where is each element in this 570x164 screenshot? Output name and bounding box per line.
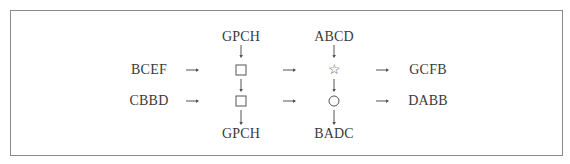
down-arrow-icon: [334, 79, 335, 91]
right-arrow-icon: [283, 70, 295, 71]
right-arrow-icon: [186, 101, 198, 102]
right-arrow-icon: [283, 101, 295, 102]
down-arrow-icon: [241, 79, 242, 91]
input-top: BCEF: [131, 62, 167, 78]
down-arrow-icon: [241, 45, 242, 57]
output-bottom: DABB: [408, 93, 448, 109]
col2-bottom-label: BADC: [314, 126, 354, 142]
col1-bottom-label: GPCH: [222, 126, 260, 142]
square-node-icon: [236, 96, 247, 107]
diagram-frame: [10, 10, 563, 156]
star-node-icon: ☆: [328, 63, 341, 77]
down-arrow-icon: [241, 110, 242, 124]
output-top: GCFB: [409, 62, 446, 78]
right-arrow-icon: [186, 70, 198, 71]
down-arrow-icon: [334, 45, 335, 57]
right-arrow-icon: [376, 70, 388, 71]
col2-top-label: ABCD: [314, 29, 354, 45]
right-arrow-icon: [376, 101, 388, 102]
square-node-icon: [236, 65, 247, 76]
circle-node-icon: [329, 96, 340, 107]
col1-top-label: GPCH: [222, 29, 260, 45]
input-bottom: CBBD: [130, 93, 169, 109]
down-arrow-icon: [334, 110, 335, 124]
